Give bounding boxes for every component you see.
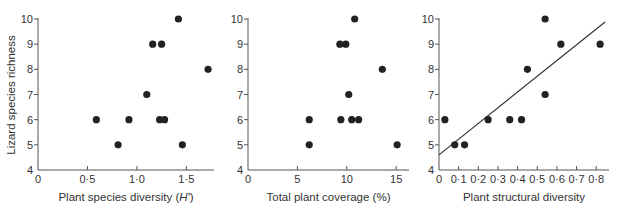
y-tick-label: 7 [428,89,434,101]
panel-plant-species-diversity: 4567891000·51·01·5Plant species diversit… [21,13,214,203]
x-tick-label: 0 [245,173,251,185]
data-point [125,116,132,123]
figure: Lizard species richness 4567891000·51·01… [0,0,620,211]
y-tick-label: 7 [27,89,33,101]
data-point [114,141,121,148]
y-tick-label: 9 [237,38,243,50]
x-tick-label: 0·1 [451,173,467,185]
data-point [379,66,386,73]
data-point [557,41,564,48]
data-point [204,66,211,73]
data-point [485,116,492,123]
data-point [524,66,531,73]
x-tick-label: 0·2 [470,173,486,185]
data-point [158,41,165,48]
y-tick-label: 6 [237,114,243,126]
data-point [342,41,349,48]
x-tick-label: 1·5 [178,173,194,185]
x-tick-label: 1·0 [129,173,145,185]
x-axis-title: Plant species diversity (H′) [58,191,193,203]
y-tick-label: 8 [237,63,243,75]
axes [248,18,409,170]
y-tick-label: 5 [428,139,434,151]
panel-total-plant-coverage: 45678910051015Total plant coverage (%) [231,13,409,203]
y-tick-label: 10 [422,13,434,25]
regression-line [439,22,605,155]
y-tick-label: 9 [428,38,434,50]
y-tick-label: 8 [428,63,434,75]
data-point [542,15,549,22]
y-tick-label: 9 [27,38,33,50]
x-axis-title: Total plant coverage (%) [266,191,390,203]
data-point [93,116,100,123]
y-tick-label: 5 [237,139,243,151]
data-point [306,141,313,148]
x-tick-label: 0·5 [529,173,545,185]
axes [38,18,214,170]
data-point [345,91,352,98]
y-tick-label: 4 [237,164,243,176]
data-point [451,141,458,148]
data-point [355,116,362,123]
data-point [394,141,401,148]
y-tick-label: 5 [27,139,33,151]
data-point [441,116,448,123]
data-point [348,116,355,123]
data-point [542,91,549,98]
data-point [461,141,468,148]
y-tick-label: 8 [27,63,33,75]
data-point [351,15,358,22]
x-tick-label: 0·7 [569,173,585,185]
x-tick-label: 0·6 [549,173,565,185]
y-tick-label: 10 [231,13,243,25]
y-tick-label: 4 [27,164,33,176]
data-point [597,41,604,48]
y-tick-label: 4 [428,164,434,176]
data-point [149,41,156,48]
data-point [337,116,344,123]
y-axis-title: Lizard species richness [5,35,17,155]
x-tick-label: 0·5 [79,173,95,185]
x-tick-label: 15 [390,173,402,185]
x-tick-label: 0·3 [490,173,506,185]
x-tick-label: 0·8 [588,173,604,185]
y-tick-label: 6 [27,114,33,126]
data-point [175,15,182,22]
data-point [518,116,525,123]
data-point [143,91,150,98]
y-tick-label: 10 [21,13,33,25]
y-tick-label: 6 [428,114,434,126]
x-tick-label: 0 [35,173,41,185]
data-point [506,116,513,123]
y-tick-label: 7 [237,89,243,101]
x-tick-label: 10 [341,173,353,185]
data-point [179,141,186,148]
x-axis-title: Plant structural diversity [463,191,585,203]
data-point [161,116,168,123]
x-tick-label: 5 [294,173,300,185]
data-point [306,116,313,123]
panel-plant-structural-diversity: 4567891000·10·20·30·40·50·60·70·8Plant s… [422,13,609,203]
x-tick-label: 0 [436,173,442,185]
x-tick-label: 0·4 [510,173,526,185]
